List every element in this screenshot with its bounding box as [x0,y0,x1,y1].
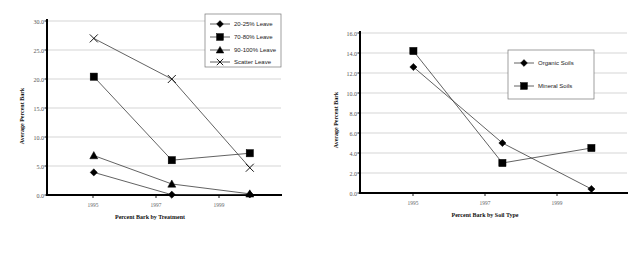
data-point-square [90,73,97,80]
left-ytick-3: 15.0 [34,106,45,112]
data-point-diamond [588,185,595,192]
data-point-x [90,34,98,42]
right-ytick-1: 2.0 [350,171,358,177]
data-point-square [499,159,506,166]
left-ytick-6: 30.0 [34,19,45,25]
right-legend-box [508,50,594,99]
right-ytick-4: 8.0 [350,111,358,117]
left-ytick-2: 10.0 [34,135,45,141]
data-point-triangle [168,180,176,187]
left-y-ticks: 0.0 5.0 10.0 15.0 20.0 25.0 30.0 [34,19,48,199]
series-line [94,77,250,161]
right-xtick-1999: 1999 [552,200,563,206]
right-legend-label-0: Organic Soils [538,60,574,66]
right-ytick-0: 0.0 [350,191,358,197]
left-x-axis-title: Percent Bark by Treatment [115,214,185,220]
legend-marker-square [217,34,224,41]
series-70-80-leave [90,73,253,164]
left-xtick-1995: 1995 [88,202,99,208]
data-point-triangle [90,152,98,159]
left-chart: Average Percent Bark 0.0 5.0 10.0 15.0 2… [0,0,320,254]
right-x-ticks: 1995 1997 1999 [408,193,563,206]
data-point-square [246,150,253,157]
left-ytick-1: 5.0 [37,164,45,170]
right-y-ticks: 0.0 2.0 4.0 6.0 8.0 10.0 12.0 14.0 16.0 [347,31,361,197]
left-legend-label-0: 20-25% Leave [234,21,273,27]
right-xtick-1997: 1997 [480,200,491,206]
data-point-x [246,164,254,172]
right-y-axis-title: Average Percent Bark [333,91,339,148]
right-ytick-7: 14.0 [347,51,358,57]
left-ytick-5: 25.0 [34,48,45,54]
right-ytick-6: 12.0 [347,71,358,77]
right-xtick-1995: 1995 [408,200,419,206]
data-point-square [588,144,595,151]
right-chart: Average Percent Bark 0.0 2.0 4.0 6.0 8.0… [320,0,640,254]
right-ytick-5: 10.0 [347,91,358,97]
left-x-ticks: 1995 1997 1999 [88,195,225,208]
right-ytick-3: 6.0 [350,131,358,137]
right-legend-label-1: Mineral Soils [538,83,572,89]
left-legend-label-3: Scatter Leave [234,59,272,65]
data-point-square [168,157,175,164]
data-point-square [410,47,417,54]
left-chart-canvas: Average Percent Bark 0.0 5.0 10.0 15.0 2… [0,0,320,254]
data-point-diamond [90,169,97,176]
left-y-axis-title: Average Percent Bark [19,87,25,144]
left-ytick-0: 0.0 [37,193,45,199]
left-xtick-1999: 1999 [214,202,225,208]
left-legend-label-2: 90-100% Leave [234,47,277,53]
right-legend: Organic Soils Mineral Soils [508,50,594,99]
right-x-axis-title: Percent Bark by Soil Type [451,212,518,218]
right-ytick-2: 4.0 [350,151,358,157]
right-chart-canvas: Average Percent Bark 0.0 2.0 4.0 6.0 8.0… [320,0,640,254]
figure-container: Average Percent Bark 0.0 5.0 10.0 15.0 2… [0,0,640,254]
right-ytick-8: 16.0 [347,31,358,37]
left-xtick-1997: 1997 [151,202,162,208]
legend-marker-square [521,83,528,90]
left-legend: 20-25% Leave 70-80% Leave 90-100% Leave … [205,14,281,67]
data-point-diamond [168,191,175,198]
left-ytick-4: 20.0 [34,77,45,83]
left-legend-label-1: 70-80% Leave [234,34,273,40]
